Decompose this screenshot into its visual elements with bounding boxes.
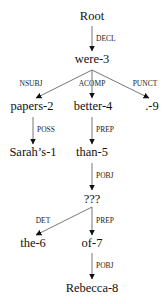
edge-label-det: DET <box>36 217 51 225</box>
tree-node-unknown: ??? <box>84 193 101 206</box>
tree-node-punct9: .-9 <box>145 100 159 113</box>
tree-node-than5: than-5 <box>76 146 108 159</box>
tree-node-better4: better-4 <box>74 100 113 113</box>
edge-label-poss: POSS <box>37 126 55 134</box>
edge-label-nsubj: NSUBJ <box>20 80 43 88</box>
tree-node-the6: the-6 <box>20 237 46 250</box>
tree-node-of7: of-7 <box>82 237 103 250</box>
tree-node-rebecca8: Rebecca-8 <box>66 282 119 295</box>
tree-node-were3: were-3 <box>75 53 110 66</box>
edge-label-prep: PREP <box>96 217 114 225</box>
tree-node-sarahs1: Sarah’s-1 <box>9 146 56 159</box>
edge-label-pobj: POBJ <box>96 262 114 270</box>
tree-node-root: Root <box>80 10 104 23</box>
edge-label-punct: PUNCT <box>133 80 158 88</box>
edge-label-prep: PREP <box>96 126 114 134</box>
edge-label-decl: DECL <box>96 35 116 43</box>
dependency-tree: DECLNSUBJACOMPPUNCTPOSSPREPPOBJDETPREPPO… <box>0 0 164 304</box>
tree-node-papers2: papers-2 <box>10 100 53 113</box>
edge-label-acomp: ACOMP <box>79 80 106 88</box>
edge-label-pobj: POBJ <box>96 172 114 180</box>
